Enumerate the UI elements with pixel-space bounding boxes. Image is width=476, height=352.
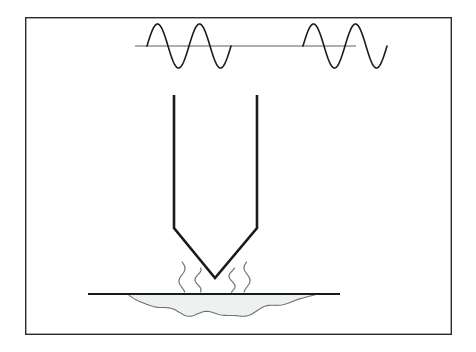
figure-canvas	[0, 0, 476, 352]
schematic-svg	[0, 0, 476, 352]
